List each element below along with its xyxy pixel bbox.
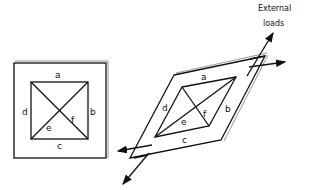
- label-d: d: [162, 103, 168, 113]
- load-arrow-left: [118, 145, 152, 151]
- label-b: b: [225, 104, 231, 114]
- rhombus-panel: a b c d e f External loads: [118, 4, 291, 184]
- shear-deformation-diagram: a b c d e f a b c d e f External loads: [0, 0, 309, 190]
- label-c: c: [57, 141, 62, 151]
- annotation-external: External: [258, 4, 291, 13]
- label-d: d: [22, 107, 28, 117]
- label-b: b: [90, 107, 96, 117]
- label-a: a: [201, 72, 207, 82]
- label-f: f: [71, 115, 75, 125]
- label-f: f: [203, 109, 207, 119]
- square-panel: a b c d e f: [14, 61, 108, 158]
- annotation-loads: loads: [263, 19, 284, 28]
- label-c: c: [182, 135, 187, 145]
- label-e: e: [181, 117, 187, 127]
- outer-rhombus: [130, 56, 265, 158]
- label-e: e: [46, 123, 52, 133]
- label-a: a: [55, 70, 61, 80]
